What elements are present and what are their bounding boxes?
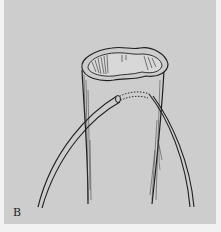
panel-label: B — [13, 206, 21, 219]
illustration-panel: B — [4, 0, 216, 224]
vessel-illustration — [4, 0, 216, 224]
